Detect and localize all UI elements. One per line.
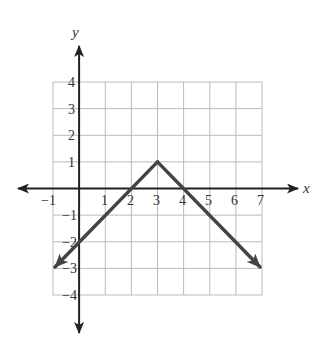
y-axis-label: y	[70, 24, 79, 40]
x-tick-label: 5	[205, 193, 212, 208]
graph-right-ray	[158, 162, 261, 267]
y-tick-label: 4	[68, 75, 75, 90]
x-tick-label: −1	[41, 193, 56, 208]
y-tick-label: 2	[68, 128, 75, 143]
x-tick-label: 3	[153, 193, 160, 208]
y-tick-label: −3	[62, 261, 77, 276]
x-axis-label: x	[302, 180, 310, 196]
y-tick-label: −4	[62, 288, 77, 303]
x-tick-labels: −1 1 2 3 4 5 6 7	[41, 193, 264, 208]
x-tick-label: 4	[179, 193, 186, 208]
x-tick-label: 1	[101, 193, 108, 208]
x-tick-label: 7	[257, 193, 264, 208]
y-tick-label: 3	[68, 102, 75, 117]
y-tick-label: −1	[62, 208, 77, 223]
x-tick-label: 6	[231, 193, 238, 208]
y-tick-label: 1	[68, 155, 75, 170]
coordinate-plane: x y −1 1 2 3 4 5 6 7 4 3 2 1 −1 −2 −3 −4	[0, 0, 322, 350]
x-tick-label: 2	[127, 193, 134, 208]
